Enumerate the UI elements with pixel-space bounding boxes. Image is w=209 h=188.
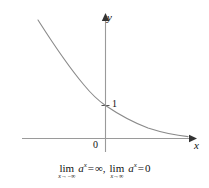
y-axis-label: y xyxy=(107,12,112,23)
limit-result-left: ∞ xyxy=(95,162,103,174)
limit-expression-base-left: ax xyxy=(78,162,87,174)
equals-sign-left: = xyxy=(87,162,95,174)
limit-expression-base-right: ax xyxy=(128,162,137,174)
limit-expression-left: lim x→−∞ ax=∞ xyxy=(58,162,102,174)
limit-result-right: 0 xyxy=(145,162,151,174)
equals-sign-right: = xyxy=(137,162,145,174)
limit-operator-left: lim x→−∞ xyxy=(58,163,75,174)
limit-operator-right: lim x→∞ xyxy=(109,163,126,174)
lim-subscript-left: x→−∞ xyxy=(58,173,75,179)
x-axis-label: x xyxy=(194,140,199,151)
exponential-decay-figure: y x 1 0 lim x→−∞ ax=∞, lim x→∞ ax=0 xyxy=(0,0,209,188)
exponential-curve xyxy=(38,20,188,137)
origin-label: 0 xyxy=(93,140,98,150)
y-intercept-value-label: 1 xyxy=(112,99,117,109)
figure-caption: lim x→−∞ ax=∞, lim x→∞ ax=0 xyxy=(0,162,209,174)
lim-subscript-right: x→∞ xyxy=(110,173,123,179)
plot-area xyxy=(0,0,209,160)
limit-expression-right: lim x→∞ ax=0 xyxy=(109,162,151,174)
